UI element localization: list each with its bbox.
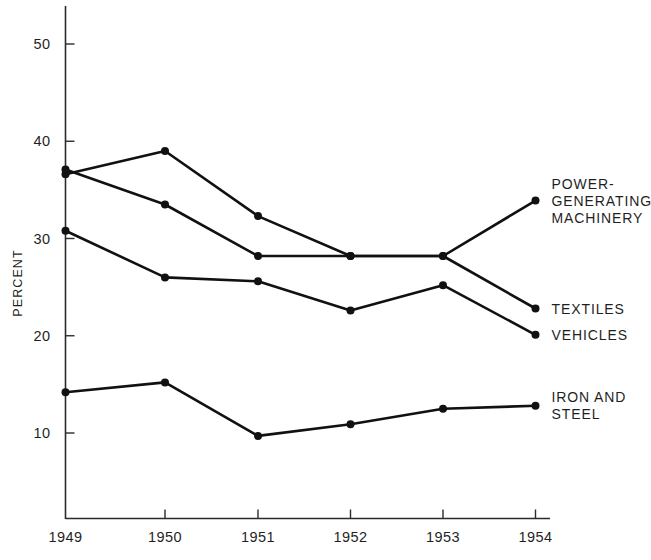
series-line (66, 231, 536, 335)
series-label-line: IRON AND (552, 389, 627, 405)
x-tick-marks (165, 510, 536, 519)
y-axis-title: PERCENT (11, 249, 25, 316)
data-point-marker (62, 227, 70, 235)
y-tick-labels: 1020304050 (34, 36, 51, 441)
series-line (66, 151, 536, 256)
data-point-marker (254, 252, 262, 260)
data-point-marker (532, 402, 540, 410)
y-tick-marks (66, 44, 75, 433)
data-point-marker (347, 307, 355, 315)
x-tick-label: 1953 (426, 529, 460, 545)
series-label-line: MACHINERY (552, 210, 644, 226)
series-label-2: TEXTILES (552, 301, 625, 317)
series-label-line: POWER- (552, 176, 615, 192)
data-point-marker (254, 212, 262, 220)
series-4 (62, 378, 540, 440)
series-line (66, 382, 536, 436)
data-point-marker (62, 166, 70, 174)
series-label-line: VEHICLES (552, 327, 628, 343)
series-1 (62, 147, 540, 260)
y-axis: 1020304050 PERCENT (11, 6, 75, 519)
data-point-marker (439, 252, 447, 260)
data-point-marker (532, 197, 540, 205)
series-group (62, 147, 540, 440)
y-tick-label: 10 (34, 425, 51, 441)
x-tick-label: 1954 (519, 529, 553, 545)
series-label-line: GENERATING (552, 193, 651, 209)
x-tick-label: 1952 (334, 529, 368, 545)
data-point-marker (439, 405, 447, 413)
series-label-4: IRON ANDSTEEL (552, 389, 627, 422)
series-line (66, 170, 536, 309)
x-tick-labels: 194919501951195219531954 (49, 529, 553, 545)
x-axis: 194919501951195219531954 (49, 510, 553, 545)
data-point-marker (161, 201, 169, 209)
data-point-marker (347, 420, 355, 428)
y-tick-label: 50 (34, 36, 51, 52)
data-point-marker (439, 281, 447, 289)
series-2 (62, 166, 540, 313)
x-tick-label: 1950 (148, 529, 182, 545)
series-label-1: POWER-GENERATINGMACHINERY (552, 176, 651, 226)
y-tick-label: 40 (34, 133, 51, 149)
x-tick-label: 1949 (49, 529, 83, 545)
data-point-marker (254, 432, 262, 440)
data-point-marker (161, 147, 169, 155)
y-tick-label: 30 (34, 231, 51, 247)
series-label-line: STEEL (552, 406, 601, 422)
data-point-marker (62, 388, 70, 396)
chart-canvas: 1020304050 PERCENT 194919501951195219531… (0, 0, 651, 560)
line-chart: 1020304050 PERCENT 194919501951195219531… (0, 0, 651, 560)
data-point-marker (161, 273, 169, 281)
data-point-marker (347, 252, 355, 260)
series-label-line: TEXTILES (552, 301, 625, 317)
series-label-3: VEHICLES (552, 327, 628, 343)
y-tick-label: 20 (34, 328, 51, 344)
data-point-marker (161, 378, 169, 386)
series-3 (62, 227, 540, 339)
x-tick-label: 1951 (241, 529, 275, 545)
series-labels-group: POWER-GENERATINGMACHINERYTEXTILESVEHICLE… (552, 176, 651, 423)
data-point-marker (532, 331, 540, 339)
data-point-marker (532, 305, 540, 313)
data-point-marker (254, 277, 262, 285)
